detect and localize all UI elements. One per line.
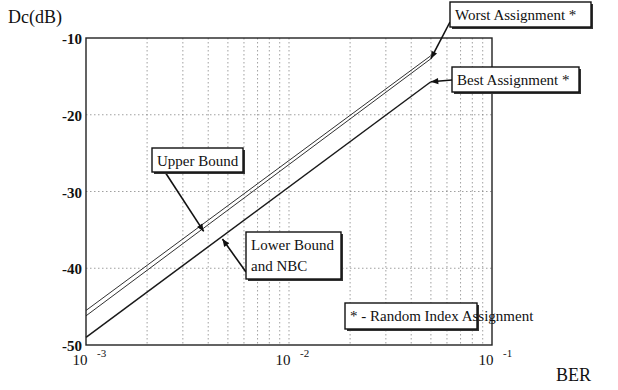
annotation-label: * - Random Index Assignment: [350, 308, 534, 324]
series-group: [86, 56, 431, 338]
chart: -10-20-30-40-50 10-310-210-1 Worst Assig…: [0, 0, 618, 390]
y-tick-labels: -10-20-30-40-50: [62, 31, 82, 354]
x-tick-exponent: -3: [97, 347, 107, 359]
x-tick-label: 10: [276, 352, 291, 368]
grid: [86, 38, 492, 345]
x-tick-exponent: -2: [300, 347, 309, 359]
y-tick-label: -20: [62, 108, 82, 124]
x-tick-exponent: -1: [503, 347, 512, 359]
annotations: Worst Assignment *Best Assignment *Upper…: [152, 2, 593, 331]
annotation-label: Lower Bound: [251, 237, 334, 253]
annotation-label: Upper Bound: [157, 153, 239, 169]
annotation-arrow: [165, 172, 204, 231]
series-line-2: [86, 82, 431, 338]
y-tick-label: -10: [62, 31, 82, 47]
y-tick-label: -30: [62, 185, 82, 201]
x-tick-label: 10: [73, 352, 88, 368]
y-axis-label: Dc(dB): [8, 7, 62, 28]
annotation-label: and NBC: [251, 258, 307, 274]
x-tick-label: 10: [479, 352, 494, 368]
y-tick-label: -40: [62, 261, 82, 277]
annotation-label: Worst Assignment *: [455, 7, 576, 23]
annotation-label: Best Assignment *: [457, 72, 570, 88]
arrowhead-icon: [222, 239, 229, 247]
x-axis-label: BER: [556, 365, 591, 385]
x-tick-labels: 10-310-210-1: [73, 347, 513, 368]
